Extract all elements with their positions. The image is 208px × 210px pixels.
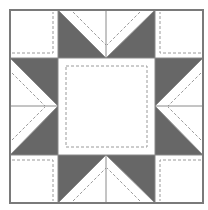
corner-bottom-right: [155, 155, 203, 203]
quilt-block-diagram: [0, 0, 208, 210]
center-square: [58, 58, 155, 155]
sawtooth-star-block: [0, 0, 208, 210]
corner-bottom-left: [10, 155, 58, 203]
corner-top-left: [10, 10, 58, 58]
corner-top-right: [155, 10, 203, 58]
